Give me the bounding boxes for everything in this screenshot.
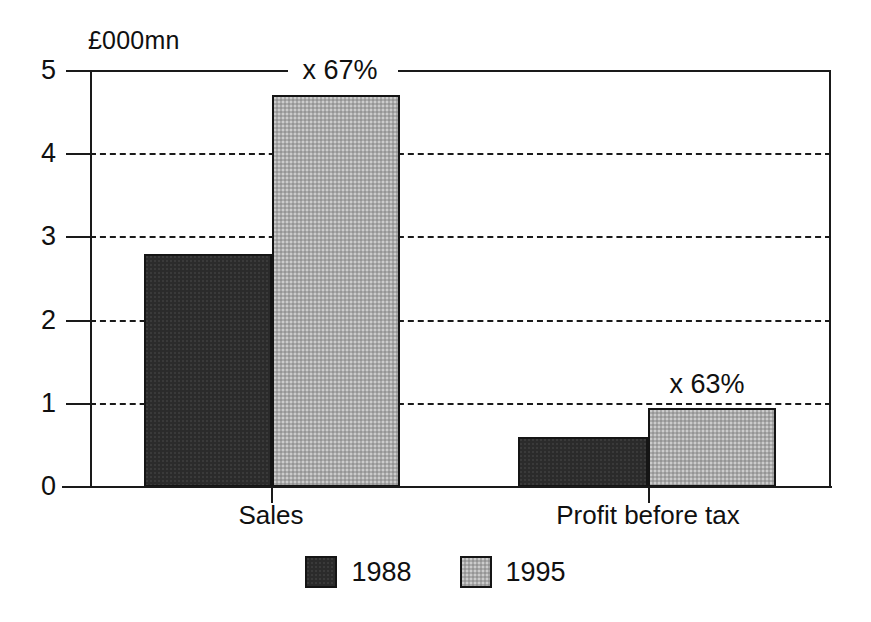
y-axis-unit-label: £000mn — [88, 26, 180, 55]
annotation-profit-growth: x 63% — [661, 371, 752, 398]
y-axis-label-0: 0 — [26, 473, 56, 500]
y-axis-label-5: 5 — [26, 57, 56, 84]
annotation-sales-growth: x 67% — [294, 57, 385, 84]
plot-frame-right — [829, 70, 831, 488]
y-axis-line — [90, 70, 92, 488]
x-axis-label-sales: Sales — [238, 500, 303, 531]
legend-item-1988: 1988 — [305, 556, 411, 588]
bars-layer — [90, 70, 831, 487]
bar-profit-1995 — [648, 408, 776, 487]
legend-item-1995: 1995 — [460, 556, 566, 588]
y-axis-label-2: 2 — [26, 307, 56, 334]
legend-label-1988: 1988 — [351, 559, 411, 586]
bar-profit-1988 — [518, 437, 648, 487]
bar-chart: £000mn 5 4 3 2 1 0 Sales — [0, 0, 871, 622]
y-tick-3 — [66, 236, 92, 238]
legend-swatch-1995 — [460, 556, 492, 588]
legend: 1988 1995 — [0, 556, 871, 588]
legend-label-1995: 1995 — [506, 559, 566, 586]
x-axis-line — [62, 486, 832, 488]
legend-swatch-1988 — [305, 556, 337, 588]
y-tick-2 — [66, 320, 92, 322]
y-tick-5 — [66, 70, 92, 72]
y-axis-label-3: 3 — [26, 223, 56, 250]
y-axis-label-4: 4 — [26, 140, 56, 167]
y-tick-1 — [66, 403, 92, 405]
y-axis-label-1: 1 — [26, 390, 56, 417]
x-axis-label-profit-before-tax: Profit before tax — [556, 500, 740, 531]
bar-sales-1995 — [272, 95, 400, 487]
y-tick-4 — [66, 153, 92, 155]
bar-sales-1988 — [144, 254, 272, 488]
